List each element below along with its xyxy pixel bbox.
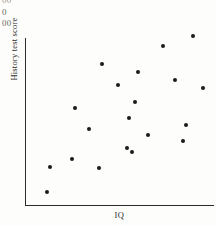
scatterplot-figure: History test score IQ xyxy=(0,0,216,226)
y-axis-label: History test score xyxy=(9,0,19,109)
x-axis-label: IQ xyxy=(25,210,214,220)
plot-area xyxy=(25,38,216,205)
x-axis-line xyxy=(25,205,214,206)
